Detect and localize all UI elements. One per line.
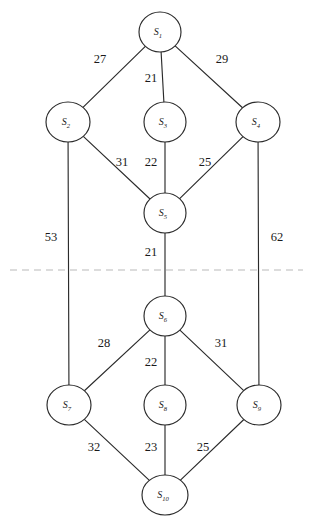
edge-weight-s6-s7: 28: [98, 336, 111, 350]
graph-node-s10[interactable]: S10: [142, 475, 188, 515]
graph-node-s7[interactable]: S7: [47, 385, 91, 425]
edge-weight-s1-s2: 27: [94, 52, 107, 66]
edge-weight-s9-s10: 25: [197, 440, 210, 454]
graph-edge-s2-s7: [68, 142, 69, 385]
graph-node-s3[interactable]: S3: [144, 102, 186, 142]
graph-node-s6[interactable]: S6: [144, 296, 186, 336]
graph-edge-s4-s5: [180, 137, 243, 199]
graph-edge-s4-s9: [258, 142, 259, 385]
edge-weight-s2-s5: 31: [116, 155, 129, 169]
graph-node-s5[interactable]: S5: [144, 193, 186, 233]
edge-weight-s4-s9: 62: [271, 230, 284, 244]
graph-node-s1[interactable]: S1: [139, 12, 181, 52]
graph-edge-s1-s3: [161, 52, 164, 102]
edge-weight-s3-s5: 22: [145, 155, 158, 169]
edge-weight-s7-s10: 32: [88, 440, 101, 454]
edge-weight-s2-s7: 53: [45, 230, 58, 244]
graph-node-s8[interactable]: S8: [144, 385, 186, 425]
graph-node-s4[interactable]: S4: [236, 102, 280, 142]
weighted-graph-figure: S1S2S3S4S5S6S7S8S9S10 272129312225532162…: [0, 0, 311, 526]
edge-weight-s5-s6: 21: [145, 245, 158, 259]
edge-weight-s1-s3: 21: [145, 71, 158, 85]
edge-weight-s6-s8: 22: [145, 355, 158, 369]
graph-node-s9[interactable]: S9: [237, 385, 281, 425]
edge-weight-s4-s5: 25: [199, 155, 212, 169]
graph-canvas: S1S2S3S4S5S6S7S8S9S10 272129312225532162…: [0, 0, 311, 526]
graph-edge-s1-s2: [83, 46, 145, 107]
graph-edge-s9-s10: [180, 420, 243, 481]
edge-weight-s1-s4: 29: [216, 52, 229, 66]
graph-node-s2[interactable]: S2: [46, 102, 90, 142]
graph-edge-s6-s7: [84, 330, 150, 391]
graph-edge-s6-s9: [180, 330, 244, 390]
graph-edge-s1-s4: [175, 46, 242, 108]
edge-weight-s6-s9: 31: [215, 336, 228, 350]
edge-weight-s8-s10: 23: [145, 440, 158, 454]
